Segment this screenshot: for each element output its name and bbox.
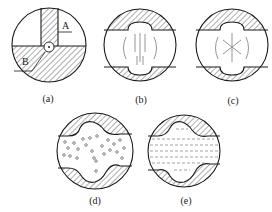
panel-b: (b) [100,0,180,106]
right-arc [246,37,249,59]
diagram-canvas: A B (a) (b) [0,0,272,212]
outer-circle [148,115,220,187]
panel-c: (c) [192,0,272,107]
hatched-top-cap [100,0,180,30]
annotation-a: A [62,20,70,31]
hatched-top-wave [146,100,222,136]
hatched-top-wave [56,100,134,136]
panel-label: (d) [89,195,101,207]
panel-e: (e) [146,100,222,207]
annotation-b: B [22,56,29,67]
panel-label: (b) [135,94,147,106]
panel-d: (d) [56,100,134,207]
panel-label: (e) [180,195,191,207]
hatched-bottom-cap [192,67,272,90]
left-arc [216,37,219,59]
junction-dot [48,46,50,48]
hatched-bottom-cap [100,67,180,90]
outer-circle [57,113,133,189]
panel-label: (a) [42,93,53,105]
panel-a: A B (a) [12,0,86,105]
hatched-top-cap [192,0,272,30]
panel-label: (c) [227,95,238,107]
left-arc [124,37,127,59]
right-arc [154,37,157,59]
hatched-slot-a [41,0,58,46]
